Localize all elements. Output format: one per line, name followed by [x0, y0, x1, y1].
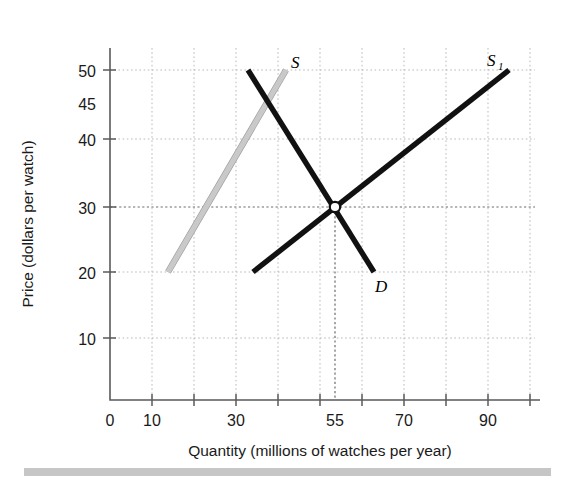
y-axis-title: Price (dollars per watch): [19, 140, 36, 307]
footer-divider-bar: [24, 468, 551, 476]
supply-new-label-subscript: 1: [498, 60, 504, 72]
y-tick-20: 20: [78, 265, 96, 282]
x-tick-30: 30: [227, 412, 245, 429]
horizontal-gridlines: [110, 70, 535, 338]
y-tick-10: 10: [78, 331, 96, 348]
x-tick-10: 10: [143, 412, 161, 429]
equilibrium-point-marker: [330, 202, 340, 212]
x-tick-55: 55: [326, 412, 344, 429]
x-tick-0: 0: [106, 412, 115, 429]
supply-new-label: S: [487, 51, 496, 70]
x-axis-title: Quantity (millions of watches per year): [188, 442, 452, 459]
x-axis-tick-labels: 0 10 30 55 70 90: [106, 412, 497, 429]
x-tick-90: 90: [479, 412, 497, 429]
y-tick-45: 45: [78, 96, 96, 113]
axes: [103, 48, 540, 406]
y-tick-50: 50: [78, 63, 96, 80]
y-tick-40: 40: [78, 132, 96, 149]
x-tick-70: 70: [395, 412, 413, 429]
y-tick-30: 30: [78, 200, 96, 217]
supply-demand-chart: 50 45 40 30 20 10 0 10 30 55 70 90 S S 1…: [0, 0, 575, 492]
curve-demand: [248, 70, 374, 272]
demand-label: D: [374, 277, 388, 296]
curve-supply-new: [253, 70, 509, 272]
supply-original-label: S: [291, 53, 300, 72]
y-axis-tick-labels: 50 45 40 30 20 10: [78, 63, 96, 348]
